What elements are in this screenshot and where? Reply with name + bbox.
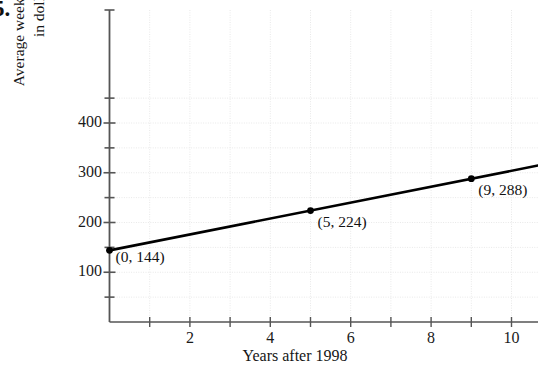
y-tick-label: 200 [58,213,102,231]
data-point-marker [468,175,475,182]
y-tick-label: 100 [58,262,102,280]
y-axis-tick-labels: 100200300400 [52,0,102,372]
gridlines [110,10,538,322]
x-tick-label: 6 [331,329,371,347]
point-annotation: (9, 288) [478,181,527,199]
axis-ticks [104,98,512,327]
y-axis-title-line1: Average weekly earnings [9,0,29,108]
data-point-marker [307,207,314,214]
chart-figure: 5. Average weekly earnings in dollars Ye… [0,0,538,372]
x-tick-label: 4 [250,329,290,347]
point-annotation: (5, 224) [318,213,367,231]
axis-lines [105,10,538,322]
y-axis-title-line2: in dollars [29,0,49,108]
x-tick-label: 2 [170,329,210,347]
x-tick-label: 8 [411,329,451,347]
x-tick-label: 10 [492,329,532,347]
data-point-marker [106,247,113,254]
point-annotation: (0, 144) [116,248,165,266]
y-tick-label: 400 [58,113,102,131]
y-axis-title: Average weekly earnings in dollars [9,0,55,108]
x-axis-tick-labels: 246810 [0,329,538,353]
y-tick-label: 300 [58,163,102,181]
